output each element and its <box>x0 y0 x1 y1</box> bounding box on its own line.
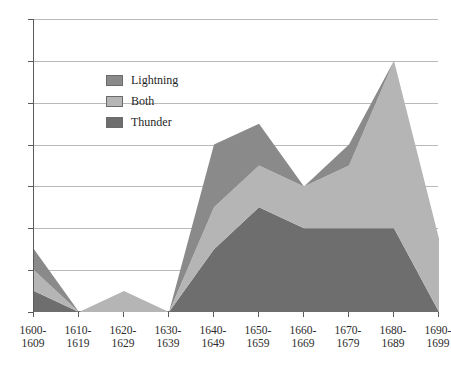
y-tick-mark-2 <box>28 270 33 271</box>
x-tick-mark-7 <box>348 312 349 317</box>
y-tick-mark-6 <box>28 186 33 187</box>
x-tick-label-1620-1629: 1620-1629 <box>110 324 137 350</box>
x-tick-mark-4 <box>213 312 214 317</box>
legend-item-thunder[interactable]: Thunder <box>106 114 178 130</box>
chart-legend: LightningBothThunder <box>106 72 178 135</box>
y-tick-mark-10 <box>28 103 33 104</box>
x-tick-mark-0 <box>33 312 34 317</box>
x-tick-label-1640-1649: 1640-1649 <box>200 324 227 350</box>
legend-label-thunder: Thunder <box>131 116 172 128</box>
x-tick-mark-5 <box>258 312 259 317</box>
series-layer <box>34 19 439 312</box>
legend-swatch-thunder <box>106 117 123 128</box>
x-tick-label-1600-1609: 1600-1609 <box>20 324 47 350</box>
x-tick-label-1630-1639: 1630-1639 <box>155 324 182 350</box>
legend-label-both: Both <box>131 95 154 107</box>
x-tick-label-1670-1679: 1670-1679 <box>335 324 362 350</box>
x-tick-mark-6 <box>303 312 304 317</box>
y-tick-mark-14 <box>28 19 33 20</box>
x-tick-mark-8 <box>393 312 394 317</box>
x-tick-label-1650-1659: 1650-1659 <box>245 324 272 350</box>
plot-area <box>33 19 438 312</box>
y-tick-mark-4 <box>28 228 33 229</box>
x-tick-mark-1 <box>78 312 79 317</box>
x-tick-mark-2 <box>123 312 124 317</box>
x-tick-label-1680-1689: 1680-1689 <box>380 324 407 350</box>
x-tick-mark-3 <box>168 312 169 317</box>
y-tick-mark-8 <box>28 145 33 146</box>
x-tick-mark-9 <box>438 312 439 317</box>
legend-swatch-lightning <box>106 75 123 86</box>
legend-item-lightning[interactable]: Lightning <box>106 72 178 88</box>
y-tick-mark-12 <box>28 61 33 62</box>
x-tick-label-1690-1699: 1690-1699 <box>425 324 451 350</box>
legend-swatch-both <box>106 96 123 107</box>
legend-item-both[interactable]: Both <box>106 93 178 109</box>
legend-label-lightning: Lightning <box>131 74 178 86</box>
x-tick-label-1610-1619: 1610-1619 <box>65 324 92 350</box>
x-tick-label-1660-1669: 1660-1669 <box>290 324 317 350</box>
